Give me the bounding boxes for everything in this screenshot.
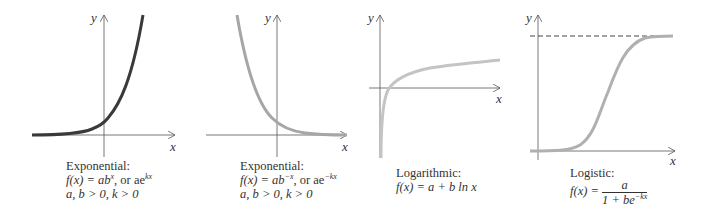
growth-curve [32,15,143,135]
caption-logistic: Logistic: f(x) = a 1 + be−kx [570,166,647,207]
x-axis-label: x [169,139,176,154]
y-axis-label: y [524,10,532,25]
logistic-curve [530,36,673,151]
y-axis-label: y [263,10,271,25]
caption-formula: f(x) = ab−x, or ae−kx [240,173,337,187]
decay-curve [237,15,347,135]
caption-formula: f(x) = a 1 + be−kx [570,178,647,207]
panel-logarithmic: y x [366,10,502,158]
caption-title: Exponential: [240,159,337,173]
log-curve [381,60,500,158]
caption-formula: f(x) = abx, or aekx [66,173,152,187]
caption-title: Exponential: [66,159,152,173]
y-axis-label: y [366,10,374,25]
caption-exponential-growth: Exponential: f(x) = abx, or aekx a, b > … [66,159,152,201]
caption-conditions: a, b > 0, k > 0 [240,187,337,201]
caption-title: Logarithmic: [396,166,477,180]
caption-conditions: a, b > 0, k > 0 [66,187,152,201]
caption-logarithmic: Logarithmic: f(x) = a + b ln x [396,166,477,194]
x-axis-label: x [341,139,348,154]
caption-formula: f(x) = a + b ln x [396,180,477,194]
panel-exponential-decay: y x [206,10,348,157]
panel-logistic: y x [524,10,676,168]
panel-exponential-growth: y x [32,10,176,157]
x-axis-label: x [495,91,502,106]
y-axis-label: y [89,10,97,25]
x-axis-label: x [669,153,676,168]
caption-exponential-decay: Exponential: f(x) = ab−x, or ae−kx a, b … [240,159,337,201]
fraction: a 1 + be−kx [602,178,647,207]
